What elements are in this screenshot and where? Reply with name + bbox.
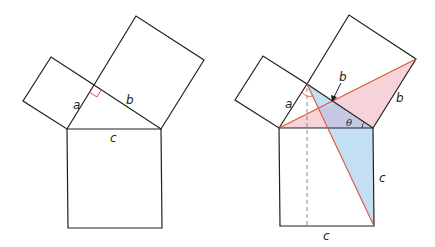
label-theta: θ	[346, 117, 352, 128]
label-a: a	[73, 98, 80, 112]
right-panel: a b b θ c c	[235, 15, 416, 243]
arrow-shaft	[334, 83, 341, 97]
label-c-bottom: c	[323, 229, 330, 243]
label-b: b	[126, 93, 134, 107]
label-b-outer: b	[396, 91, 404, 105]
label-b-inner: b	[339, 70, 347, 84]
pythagoras-diagram: a b c a b b θ c c	[0, 0, 435, 247]
left-panel: a b c	[23, 16, 204, 228]
label-c-side: c	[379, 171, 386, 185]
square-on-a	[23, 57, 94, 129]
square-on-b	[94, 16, 204, 129]
label-a-right: a	[285, 97, 292, 111]
label-c: c	[110, 131, 117, 145]
right-angle-marker	[90, 90, 102, 97]
square-on-a-right	[235, 56, 307, 128]
